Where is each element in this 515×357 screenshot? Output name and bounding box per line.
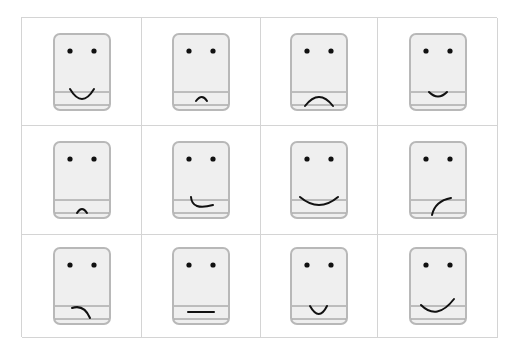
face-icon [409, 247, 467, 325]
face-icon [53, 247, 111, 325]
left-eye-icon [186, 156, 191, 161]
right-eye-icon [447, 48, 452, 53]
right-eye-icon [210, 262, 215, 267]
grid-cell [142, 18, 261, 126]
right-eye-icon [328, 156, 333, 161]
left-eye-icon [423, 262, 428, 267]
face-icon [290, 141, 348, 219]
right-eye-icon [328, 262, 333, 267]
grid-cell [261, 18, 378, 126]
left-eye-icon [423, 48, 428, 53]
left-eye-icon [186, 262, 191, 267]
face-card-tiny-frown-low[interactable] [53, 141, 111, 219]
left-eye-icon [186, 48, 191, 53]
grid-cell [142, 126, 261, 235]
right-eye-icon [91, 48, 96, 53]
face-icon [172, 247, 230, 325]
left-eye-icon [304, 156, 309, 161]
grid-cell [22, 235, 142, 338]
face-icon [53, 141, 111, 219]
grid-cell [378, 126, 498, 235]
face-card-curve-up-right[interactable] [409, 141, 467, 219]
left-eye-icon [423, 156, 428, 161]
face-card-grid [21, 17, 497, 337]
face-icon [409, 33, 467, 111]
right-eye-icon [328, 48, 333, 53]
grid-cell [261, 235, 378, 338]
right-eye-icon [91, 156, 96, 161]
left-eye-icon [67, 262, 72, 267]
grid-cell [22, 126, 142, 235]
face-card-wide-smile[interactable] [290, 141, 348, 219]
face-card-flat-line[interactable] [172, 247, 230, 325]
left-eye-icon [304, 48, 309, 53]
face-card-smile-up-right[interactable] [409, 247, 467, 325]
face-icon [53, 33, 111, 111]
grid-cell [378, 235, 498, 338]
face-icon [172, 33, 230, 111]
left-eye-icon [67, 156, 72, 161]
right-eye-icon [91, 262, 96, 267]
face-card-narrow-u[interactable] [290, 247, 348, 325]
face-icon [172, 141, 230, 219]
face-icon [290, 247, 348, 325]
left-eye-icon [67, 48, 72, 53]
right-eye-icon [447, 156, 452, 161]
face-card-frown-right[interactable] [53, 247, 111, 325]
grid-cell [22, 18, 142, 126]
left-eye-icon [304, 262, 309, 267]
face-card-lopsided-smile-right[interactable] [172, 141, 230, 219]
right-eye-icon [210, 48, 215, 53]
right-eye-icon [447, 262, 452, 267]
face-card-big-frown[interactable] [290, 33, 348, 111]
grid-cell [378, 18, 498, 126]
face-icon [290, 33, 348, 111]
face-icon [409, 141, 467, 219]
face-card-big-smile[interactable] [53, 33, 111, 111]
grid-cell [261, 126, 378, 235]
right-eye-icon [210, 156, 215, 161]
face-card-small-smile[interactable] [409, 33, 467, 111]
grid-cell [142, 235, 261, 338]
face-card-small-frown[interactable] [172, 33, 230, 111]
